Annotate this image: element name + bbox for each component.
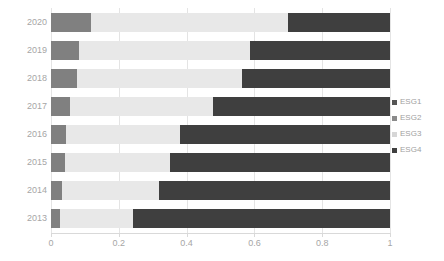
plot-area bbox=[51, 8, 390, 233]
legend-label: ESG4 bbox=[400, 146, 421, 154]
legend-item-esg1[interactable]: ESG1 bbox=[392, 94, 444, 110]
x-tick-0 bbox=[51, 233, 52, 237]
bar-segment-esg4-2015 bbox=[170, 153, 390, 172]
bar-segment-esg3-2014 bbox=[62, 181, 159, 200]
x-axis-line bbox=[51, 233, 391, 234]
bar-row bbox=[51, 36, 390, 64]
legend-swatch-icon bbox=[392, 116, 397, 121]
y-tick-label-2014: 2014 bbox=[3, 176, 47, 204]
gridline-1 bbox=[390, 8, 391, 233]
legend-swatch-icon bbox=[392, 148, 397, 153]
x-tick-label-1: 1 bbox=[387, 238, 392, 248]
y-tick-label-2013: 2013 bbox=[3, 204, 47, 232]
bar-segment-esg4-2017 bbox=[213, 97, 390, 116]
bar-segment-esg1-2013 bbox=[51, 209, 60, 228]
bar-segment-esg1-2016 bbox=[51, 125, 66, 144]
legend-swatch-icon bbox=[392, 132, 397, 137]
y-axis-labels: 20202019201820172016201520142013 bbox=[0, 8, 47, 233]
legend-swatch-icon bbox=[392, 100, 397, 105]
x-axis-tick-labels: 00.20.40.60.81 bbox=[0, 238, 444, 254]
bar-segment-esg1-2018 bbox=[51, 69, 77, 88]
bar-row bbox=[51, 120, 390, 148]
x-tick-0.4 bbox=[187, 233, 188, 237]
bar-segment-esg1-2014 bbox=[51, 181, 62, 200]
bar-segment-esg3-2013 bbox=[60, 209, 133, 228]
stacked-bar-chart: 20202019201820172016201520142013 00.20.4… bbox=[0, 0, 444, 261]
bar-segment-esg3-2020 bbox=[91, 13, 288, 32]
x-tick-0.2 bbox=[119, 233, 120, 237]
x-tick-0.6 bbox=[254, 233, 255, 237]
bar-segment-esg1-2017 bbox=[51, 97, 70, 116]
bar-segment-esg4-2016 bbox=[180, 125, 390, 144]
x-tick-0.8 bbox=[322, 233, 323, 237]
legend-label: ESG3 bbox=[400, 130, 421, 138]
bar-segment-esg4-2020 bbox=[288, 13, 390, 32]
x-tick-label-0: 0 bbox=[48, 238, 53, 248]
legend-label: ESG2 bbox=[400, 114, 421, 122]
bar-row bbox=[51, 204, 390, 232]
x-tick-label-0.2: 0.2 bbox=[113, 238, 126, 248]
bar-segment-esg3-2016 bbox=[66, 125, 180, 144]
bar-segment-esg4-2018 bbox=[242, 69, 390, 88]
y-tick-label-2016: 2016 bbox=[3, 120, 47, 148]
legend-item-esg3[interactable]: ESG3 bbox=[392, 126, 444, 142]
y-tick-label-2018: 2018 bbox=[3, 64, 47, 92]
bar-segment-esg4-2013 bbox=[133, 209, 390, 228]
y-tick-label-2019: 2019 bbox=[3, 36, 47, 64]
x-tick-label-0.8: 0.8 bbox=[316, 238, 329, 248]
chart-legend: ESG1ESG2ESG3ESG4 bbox=[392, 94, 444, 158]
x-tick-label-0.6: 0.6 bbox=[248, 238, 261, 248]
x-tick-label-0.4: 0.4 bbox=[180, 238, 193, 248]
bar-row bbox=[51, 176, 390, 204]
bar-segment-esg1-2019 bbox=[51, 41, 79, 60]
x-tick-1 bbox=[390, 233, 391, 237]
bar-segment-esg3-2018 bbox=[77, 69, 242, 88]
bar-row bbox=[51, 8, 390, 36]
y-tick-label-2020: 2020 bbox=[3, 8, 47, 36]
legend-label: ESG1 bbox=[400, 98, 421, 106]
legend-item-esg4[interactable]: ESG4 bbox=[392, 142, 444, 158]
bar-segment-esg4-2014 bbox=[159, 181, 390, 200]
y-tick-label-2015: 2015 bbox=[3, 148, 47, 176]
bar-segment-esg1-2015 bbox=[51, 153, 65, 172]
bar-segment-esg3-2019 bbox=[79, 41, 250, 60]
bar-segment-esg1-2020 bbox=[51, 13, 91, 32]
bar-row bbox=[51, 148, 390, 176]
bar-row bbox=[51, 92, 390, 120]
bar-segment-esg4-2019 bbox=[250, 41, 390, 60]
bar-segment-esg3-2015 bbox=[65, 153, 170, 172]
bar-row bbox=[51, 64, 390, 92]
bar-segment-esg3-2017 bbox=[70, 97, 213, 116]
y-tick-label-2017: 2017 bbox=[3, 92, 47, 120]
legend-item-esg2[interactable]: ESG2 bbox=[392, 110, 444, 126]
